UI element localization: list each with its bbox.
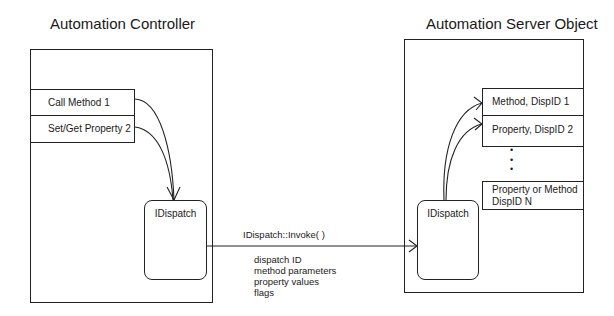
arrow-idispatch-to-property <box>446 124 482 200</box>
arrow-property-to-idispatch <box>135 127 173 200</box>
connector-layer <box>0 0 614 316</box>
arrow-idispatch-to-method <box>444 103 482 200</box>
arrow-call-to-idispatch <box>135 99 174 200</box>
